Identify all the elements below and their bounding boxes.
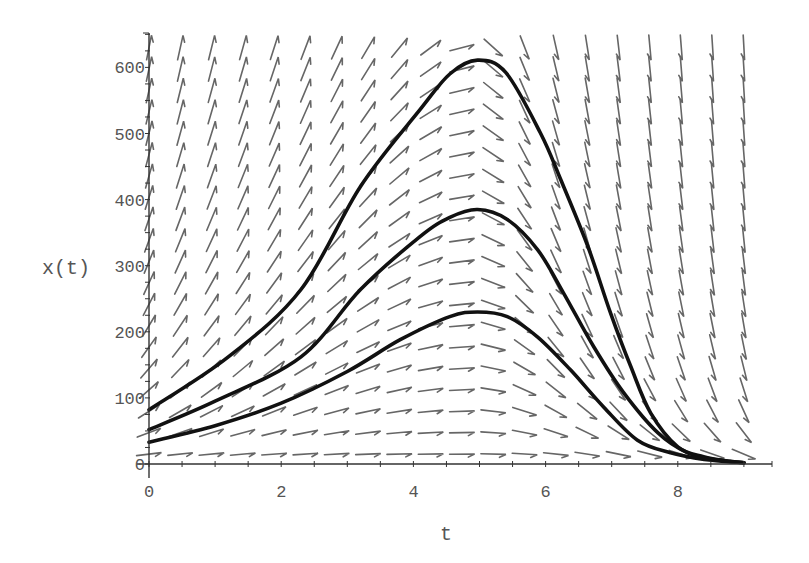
slope-arrow (267, 251, 281, 272)
slope-arrow (173, 315, 187, 336)
slope-arrow (239, 143, 248, 167)
slope-arrow (172, 360, 189, 378)
slope-arrow (208, 143, 217, 167)
slope-arrow (296, 317, 315, 334)
slope-arrow (331, 58, 342, 80)
slope-arrow (518, 208, 532, 229)
slope-arrow (648, 228, 652, 253)
slope-arrow (270, 57, 279, 81)
slope-arrow (513, 407, 537, 416)
slope-arrow (549, 315, 563, 336)
slope-arrow (647, 314, 654, 338)
solution-curves (149, 60, 744, 463)
slope-arrow (450, 411, 475, 414)
y-axis-label: x(t) (42, 257, 90, 280)
slope-arrow (176, 229, 186, 252)
slope-arrow (208, 100, 216, 124)
slope-arrow (361, 102, 375, 123)
slope-arrow (391, 60, 407, 79)
slope-arrow (648, 35, 652, 60)
slope-arrow (233, 361, 252, 377)
slope-arrow (269, 165, 280, 188)
slope-arrow (177, 143, 185, 167)
slope-arrow (177, 100, 185, 124)
slope-arrow (388, 321, 411, 330)
slope-arrow (739, 400, 749, 423)
slope-arrow (262, 430, 286, 436)
slope-arrow (390, 168, 409, 184)
slope-arrow (585, 164, 591, 188)
slope-arrow (648, 206, 652, 231)
slope-arrow (678, 314, 684, 338)
slope-arrow (298, 252, 313, 272)
slope-arrow (553, 121, 560, 145)
slope-arrow (545, 405, 567, 417)
slope-arrow (645, 357, 655, 380)
slope-arrow (205, 294, 218, 315)
slope-arrow (450, 454, 475, 457)
chart-canvas: 02468 0100200300400500600 x(t) t (0, 0, 809, 563)
slope-arrow (324, 453, 349, 456)
y-tick-label: 600 (114, 59, 145, 78)
slope-arrow (481, 366, 506, 373)
slope-arrow (238, 207, 249, 230)
slope-arrow (553, 78, 559, 102)
slope-arrow (736, 423, 751, 443)
slope-arrow (299, 187, 312, 209)
slope-arrow (420, 192, 443, 203)
slope-arrow (581, 336, 593, 358)
x-tick-label: 0 (144, 483, 154, 502)
slope-arrow (239, 78, 248, 102)
slope-arrow (177, 121, 185, 145)
slope-arrow (236, 272, 250, 293)
slope-arrow (146, 100, 153, 124)
slope-arrow (360, 145, 376, 165)
slope-arrow (606, 452, 631, 459)
slope-arrow (391, 81, 408, 100)
slope-arrow (482, 300, 506, 309)
slope-arrow (238, 164, 248, 187)
slope-arrow (450, 88, 474, 94)
slope-arrow (741, 335, 746, 360)
slope-arrow (203, 338, 219, 357)
slope-arrow (236, 294, 251, 314)
slope-arrow (265, 339, 284, 356)
slope-arrow (616, 207, 621, 232)
slope-arrow (418, 454, 443, 457)
slope-arrow (578, 403, 598, 419)
slope-arrow (356, 431, 381, 435)
slope-arrow (231, 429, 255, 436)
y-tick-label: 400 (114, 192, 145, 211)
slope-arrow (450, 325, 475, 329)
slope-arrow (419, 345, 443, 350)
slope-arrow (551, 250, 562, 273)
slope-arrow (450, 346, 475, 350)
slope-arrow (483, 104, 503, 119)
slope-arrow (515, 340, 535, 355)
slope-arrow (679, 249, 683, 274)
slope-arrow (326, 341, 347, 354)
slope-arrow (175, 272, 186, 294)
slope-arrow (420, 149, 442, 161)
slope-arrow (646, 335, 654, 359)
slope-arrow (732, 449, 755, 459)
slope-arrow (294, 407, 318, 415)
slope-arrow (419, 301, 443, 308)
slope-arrow (237, 251, 249, 273)
slope-arrow (516, 296, 534, 314)
slope-arrow (328, 274, 346, 291)
slope-arrow (484, 39, 503, 56)
slope-arrow (387, 454, 412, 457)
slope-arrow (519, 144, 531, 166)
slope-arrow (173, 337, 188, 357)
slope-arrow (553, 57, 559, 81)
x-tick-label: 8 (673, 483, 683, 502)
slope-arrow (481, 432, 506, 436)
slope-arrow (576, 427, 599, 438)
slope-arrow (482, 278, 505, 288)
slope-arrow (325, 385, 348, 394)
x-tick-label: 2 (276, 483, 286, 502)
slope-arrow (361, 80, 375, 101)
slope-arrow (740, 378, 748, 402)
slope-arrow (239, 57, 247, 81)
